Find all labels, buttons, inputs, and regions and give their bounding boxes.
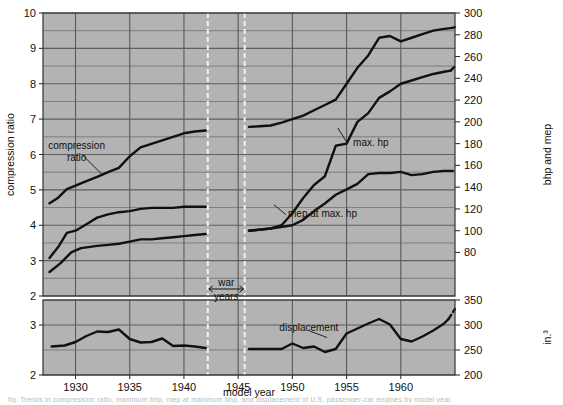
y-axis-label-right-lower: in.³ [541,330,553,345]
y-axis-label-left: compression ratio [4,113,16,196]
axis-tick-label-bottom: 1960 [389,381,413,393]
axis-tick-label-right: 260 [464,51,482,63]
lower-panel-background [43,300,455,375]
axis-tick-label-right: 200 [464,116,482,128]
axis-tick-label-bottom: 1930 [63,381,87,393]
axis-tick-label-left: 10 [24,7,36,19]
war-years-label-line2: years [214,291,238,302]
axis-tick-label-left: 2 [30,369,36,381]
axis-tick-label-bottom: 1940 [172,381,196,393]
chart-figure: 2345678910238010012014016018020022024026… [0,0,563,405]
axis-tick-label-bottom: 1935 [117,381,141,393]
upper-left-ticks: 2345678910 [24,7,43,302]
axis-tick-label-left: 9 [30,42,36,54]
figure-caption: fig. Trends in compression ratio, maximu… [8,396,556,403]
axis-tick-label-bottom: 1950 [280,381,304,393]
axis-tick-label-right: 300 [464,319,482,331]
axis-tick-label-left: 6 [30,149,36,161]
lower-annotations: displacement [279,322,338,333]
axis-tick-label-right: 200 [464,369,482,381]
lower-right-ticks: 200250300350 [455,294,482,381]
upper-right-ticks: 80100120140160180200220240260280300 [455,7,482,258]
annotation-label: ratio [67,152,87,163]
annotation-label: displacement [279,322,338,333]
axis-tick-label-bottom: 1955 [334,381,358,393]
annotation-label: max. hp [353,137,389,148]
axis-tick-label-right: 280 [464,29,482,41]
axis-tick-label-right: 80 [464,246,476,258]
axis-tick-label-left: 2 [30,290,36,302]
axis-tick-label-right: 250 [464,344,482,356]
axis-tick-label-right: 350 [464,294,482,306]
y-axis-label-right: bhp and mep [541,124,553,185]
axis-tick-label-right: 180 [464,138,482,150]
lower-left-ticks: 23 [30,319,43,381]
axis-tick-label-right: 240 [464,72,482,84]
annotation-label: mep at max. hp [288,208,357,219]
axis-tick-label-right: 160 [464,159,482,171]
axis-tick-label-left: 3 [30,255,36,267]
axis-tick-label-left: 8 [30,78,36,90]
annotation-label: compression [48,140,105,151]
war-years-label-line1: war [217,277,235,288]
engine-trends-chart: 2345678910238010012014016018020022024026… [0,0,563,405]
axis-tick-label-right: 120 [464,203,482,215]
axis-tick-label-left: 4 [30,219,36,231]
axis-tick-label-left: 7 [30,113,36,125]
axis-tick-label-left: 5 [30,184,36,196]
axis-tick-label-right: 300 [464,7,482,19]
axis-tick-label-right: 220 [464,94,482,106]
axis-tick-label-right: 100 [464,225,482,237]
axis-tick-label-right: 140 [464,181,482,193]
axis-tick-label-left: 3 [30,319,36,331]
